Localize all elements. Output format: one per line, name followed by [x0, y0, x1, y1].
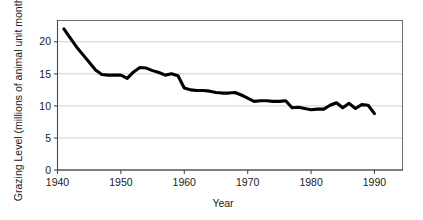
x-ticklabel-group: 194019501960197019801990: [46, 176, 386, 188]
x-tickmark-group: [58, 170, 375, 174]
y-tick-label: 5: [45, 132, 51, 144]
x-tick-label: 1960: [173, 176, 197, 188]
x-axis-title: Year: [212, 197, 234, 209]
y-ticklabel-group: 05101520: [39, 35, 51, 175]
y-tick-label: 0: [45, 164, 51, 176]
x-tick-label: 1970: [236, 176, 260, 188]
chart-figure: 05101520 194019501960197019801990 Year G…: [0, 0, 423, 220]
x-tick-label: 1940: [46, 176, 70, 188]
grazing-level-line-chart: 05101520 194019501960197019801990 Year G…: [0, 0, 423, 220]
y-tick-label: 10: [39, 100, 51, 112]
x-tick-label: 1950: [109, 176, 133, 188]
x-tick-label: 1980: [299, 176, 323, 188]
plot-background: [57, 20, 403, 170]
y-tick-label: 20: [39, 35, 51, 47]
y-tick-label: 15: [39, 68, 51, 80]
x-tick-label: 1990: [363, 176, 387, 188]
y-axis-title: Grazing Level (millions of animal unit m…: [12, 0, 24, 201]
